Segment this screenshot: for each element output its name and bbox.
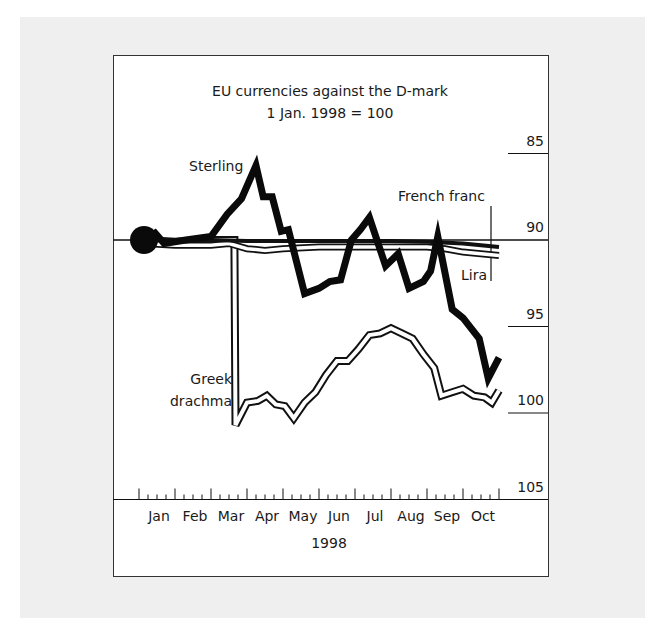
line-chart: 105100959085 JanFebMarAprMayJunJulAugSep… bbox=[0, 0, 666, 636]
x-tick-label: Oct bbox=[471, 508, 496, 524]
x-tick-label: May bbox=[289, 508, 318, 524]
start-point-marker bbox=[130, 226, 158, 254]
chart-title: EU currencies against the D-mark bbox=[212, 83, 449, 99]
x-tick-label: Jan bbox=[147, 508, 170, 524]
label-sterling: Sterling bbox=[189, 158, 243, 174]
chart-subtitle: 1 Jan. 1998 = 100 bbox=[267, 105, 394, 121]
y-tick-label: 85 bbox=[526, 133, 544, 149]
x-axis: JanFebMarAprMayJunJulAugSepOct bbox=[139, 489, 499, 525]
x-axis-title: 1998 bbox=[311, 535, 347, 551]
y-tick-label: 95 bbox=[526, 306, 544, 322]
series-layer bbox=[130, 166, 499, 426]
label-french-franc: French franc bbox=[398, 188, 485, 204]
x-tick-label: Sep bbox=[434, 508, 461, 524]
x-tick-label: Jun bbox=[327, 508, 350, 524]
x-tick-label: Mar bbox=[218, 508, 245, 524]
label-greek-line1: Greek bbox=[190, 371, 233, 387]
x-tick-label: Apr bbox=[255, 508, 279, 524]
y-tick-label: 105 bbox=[517, 479, 544, 495]
x-tick-label: Jul bbox=[366, 508, 384, 524]
y-tick-label: 90 bbox=[526, 219, 544, 235]
x-tick-label: Feb bbox=[183, 508, 208, 524]
y-tick-label: 100 bbox=[517, 392, 544, 408]
label-lira: Lira bbox=[461, 267, 487, 283]
label-greek-line2: drachma bbox=[170, 393, 232, 409]
x-tick-label: Aug bbox=[397, 508, 424, 524]
